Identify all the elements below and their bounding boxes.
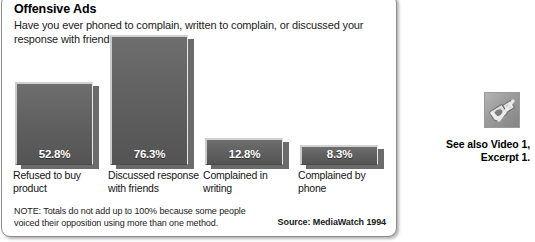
bar-group: 12.8%Complained in writing [205,138,283,165]
bar: 52.8% [15,82,93,165]
bar-value-label: 52.8% [17,148,92,160]
bar: 12.8% [205,138,283,165]
bar: 8.3% [300,145,378,165]
video-clip-icon[interactable] [484,92,520,128]
bar-value-label: 8.3% [302,148,377,160]
bar-chart-plot-area: 52.8%Refused to buy product76.3%Discusse… [2,0,398,238]
bar-category-label: Discussed response with friends [108,169,200,194]
bar-category-label: Refused to buy product [13,169,105,194]
chart-note: NOTE: Totals do not add up to 100% becau… [14,206,264,229]
chart-source: Source: MediaWatch 1994 [278,217,386,227]
bar-value-label: 12.8% [207,148,282,160]
bar-category-label: Complained by phone [298,169,390,194]
see-also-label: See also Video 1, Excerpt 1. [404,138,532,164]
see-also-block: See also Video 1, Excerpt 1. [404,92,532,164]
bar-group: 76.3%Discussed response with friends [110,35,188,165]
chart-panel: Offensive Ads Have you ever phoned to co… [1,0,397,237]
bar-group: 8.3%Complained by phone [300,145,378,165]
bar-value-label: 76.3% [112,148,187,160]
bar: 76.3% [110,35,188,165]
bar-group: 52.8%Refused to buy product [15,82,93,165]
bar-category-label: Complained in writing [203,169,295,194]
